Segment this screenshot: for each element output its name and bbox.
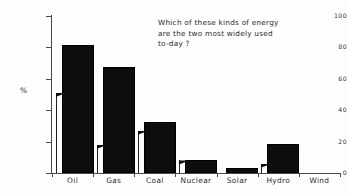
pointer-nuclear-icon [179, 160, 180, 173]
bar-solar [226, 168, 258, 173]
bar-oil [62, 45, 94, 173]
x-label-nuclear: Nuclear [175, 177, 216, 184]
bar-coal [144, 122, 176, 173]
bar-nuclear [185, 160, 217, 173]
y-axis-label: % [20, 86, 27, 95]
x-tick-7 [340, 173, 341, 177]
x-label-wind: Wind [299, 177, 340, 184]
pointer-hydro-icon [261, 164, 262, 173]
x-label-coal: Coal [134, 177, 175, 184]
pointer-coal-icon [138, 131, 139, 173]
pointer-oil-icon [56, 93, 57, 173]
x-label-gas: Gas [93, 177, 134, 184]
x-axis-labels: OilGasCoalNuclearSolarHydroWind [52, 177, 340, 193]
x-label-oil: Oil [52, 177, 93, 184]
x-axis-line [51, 173, 340, 174]
pointer-gas-icon [97, 145, 98, 173]
x-label-hydro: Hydro [258, 177, 299, 184]
bar-chart: Which of these kinds of energy are the t… [0, 0, 347, 194]
bar-hydro [267, 144, 299, 173]
bar-gas [103, 67, 135, 173]
bars-layer [52, 16, 340, 173]
x-label-solar: Solar [217, 177, 258, 184]
